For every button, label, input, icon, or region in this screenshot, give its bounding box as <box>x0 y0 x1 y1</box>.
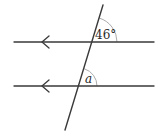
transversal-line <box>65 5 103 130</box>
lower-angle-label: a <box>85 72 92 86</box>
parallel-lines-diagram: 46° a <box>0 0 163 134</box>
upper-angle-label: 46° <box>95 28 116 42</box>
